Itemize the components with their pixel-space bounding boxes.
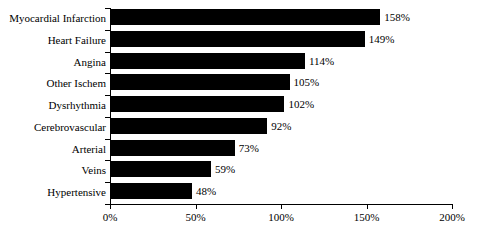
bar — [110, 96, 284, 112]
bar-value-label: 102% — [284, 96, 314, 112]
x-axis-tick — [452, 205, 453, 209]
bar — [110, 118, 267, 134]
bar-value-label: 158% — [380, 9, 410, 25]
bar — [110, 183, 192, 199]
category-label: Angina — [6, 52, 110, 74]
bar — [110, 161, 211, 177]
y-axis-tick — [105, 30, 110, 31]
bar-value-label: 92% — [267, 118, 291, 134]
bar-value-label: 149% — [365, 31, 395, 47]
x-axis-tick — [196, 205, 197, 209]
y-axis-tick — [105, 139, 110, 140]
x-axis-tick — [281, 205, 282, 209]
category-label: Veins — [6, 160, 110, 182]
y-axis-tick — [105, 204, 110, 205]
category-label: Dysrhythmia — [6, 95, 110, 117]
bar-row: 105% — [110, 73, 452, 95]
bar — [110, 53, 305, 69]
x-axis-tick-label: 50% — [185, 211, 205, 223]
y-axis-tick — [105, 160, 110, 161]
bar-chart: Myocardial InfarctionHeart FailureAngina… — [0, 0, 488, 235]
bar-row: 92% — [110, 117, 452, 139]
bar — [110, 9, 380, 25]
bar-row: 102% — [110, 95, 452, 117]
bar — [110, 31, 365, 47]
bar — [110, 140, 235, 156]
bar-value-label: 105% — [290, 74, 320, 90]
bar-row: 48% — [110, 182, 452, 204]
bar-value-label: 48% — [192, 183, 216, 199]
category-label: Cerebrovascular — [6, 117, 110, 139]
category-label: Arterial — [6, 139, 110, 161]
x-axis-tick-label: 0% — [103, 211, 118, 223]
category-label: Myocardial Infarction — [6, 8, 110, 30]
y-axis-tick — [105, 117, 110, 118]
y-axis-tick — [105, 73, 110, 74]
bar-value-label: 73% — [235, 140, 259, 156]
y-axis-tick — [105, 8, 110, 9]
category-axis-labels: Myocardial InfarctionHeart FailureAngina… — [0, 8, 110, 204]
x-axis-tick — [367, 205, 368, 209]
category-label: Heart Failure — [6, 30, 110, 52]
y-axis-tick — [105, 182, 110, 183]
plot-area: 158%149%114%105%102%92%73%59%48% — [110, 8, 452, 204]
bar-row: 59% — [110, 160, 452, 182]
y-axis-tick — [105, 52, 110, 53]
bar — [110, 74, 290, 90]
bar-row: 73% — [110, 139, 452, 161]
x-axis-tick-label: 200% — [439, 211, 465, 223]
bar-value-label: 114% — [305, 53, 334, 69]
bar-row: 158% — [110, 8, 452, 30]
bar-row: 114% — [110, 52, 452, 74]
x-axis-tick-label: 100% — [268, 211, 294, 223]
category-label: Hypertensive — [6, 182, 110, 204]
x-axis-tick — [110, 205, 111, 209]
x-axis-tick-label: 150% — [354, 211, 380, 223]
category-label: Other Ischem — [6, 73, 110, 95]
bar-row: 149% — [110, 30, 452, 52]
bar-value-label: 59% — [211, 161, 235, 177]
y-axis-tick — [105, 95, 110, 96]
